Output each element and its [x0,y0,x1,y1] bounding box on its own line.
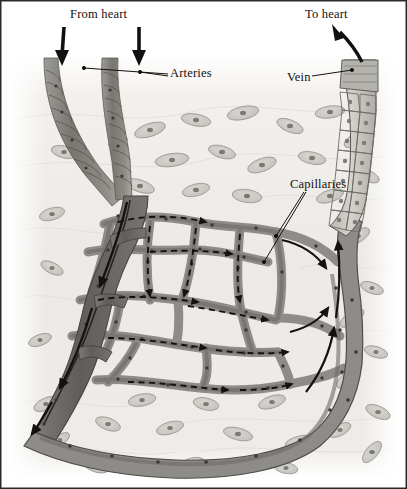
figure-microcirculation: From heart To heart Arteries Vein Capill… [0,0,407,489]
label-to-heart: To heart [305,7,348,22]
label-arteries: Arteries [170,66,212,81]
label-from-heart: From heart [70,7,127,22]
label-vein: Vein [287,70,311,85]
label-capillaries: Capillaries [290,177,346,192]
